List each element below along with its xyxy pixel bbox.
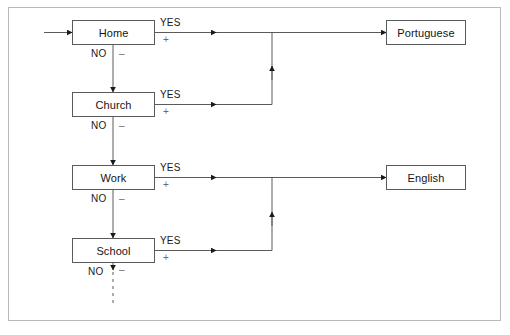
node-portuguese[interactable]: Portuguese (386, 20, 466, 45)
label-home-minus: – (119, 48, 125, 59)
node-work-label: Work (101, 172, 127, 184)
label-home-plus: + (163, 34, 169, 45)
label-church-plus: + (163, 106, 169, 117)
label-church-no: NO (91, 120, 106, 131)
label-church-minus: – (119, 120, 125, 131)
label-work-minus: – (119, 193, 125, 204)
label-home-yes: YES (160, 17, 181, 28)
label-work-plus: + (163, 179, 169, 190)
node-portuguese-label: Portuguese (397, 27, 454, 39)
node-home-label: Home (99, 27, 129, 39)
label-school-yes: YES (160, 235, 181, 246)
node-work[interactable]: Work (72, 165, 155, 190)
node-school[interactable]: School (72, 238, 155, 263)
label-school-no: NO (88, 266, 103, 277)
node-church-label: Church (95, 99, 131, 111)
node-school-label: School (96, 245, 130, 257)
label-work-yes: YES (160, 162, 181, 173)
label-work-no: NO (91, 193, 106, 204)
label-school-plus: + (163, 252, 169, 263)
flowchart-figure: Home Church Work School Portuguese Engli… (0, 0, 510, 335)
node-home[interactable]: Home (72, 20, 155, 45)
label-school-minus: – (119, 264, 125, 275)
label-church-yes: YES (160, 89, 181, 100)
node-church[interactable]: Church (72, 92, 155, 117)
label-home-no: NO (91, 48, 106, 59)
node-english[interactable]: English (386, 165, 466, 190)
node-english-label: English (408, 172, 445, 184)
